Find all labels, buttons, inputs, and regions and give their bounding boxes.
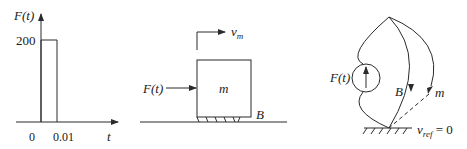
source-label: F(t) — [329, 70, 350, 85]
source-branch-bottom — [359, 92, 389, 128]
y-axis-label: F(t) — [13, 8, 34, 23]
branch-m-label: m — [435, 85, 444, 100]
friction-hatch — [197, 117, 240, 122]
branch-b-arrow-icon — [408, 84, 414, 92]
branch-m-arrow-icon — [427, 86, 433, 94]
velocity-label: vm — [231, 24, 244, 41]
source-branch-top — [358, 17, 389, 64]
pulse-plot: F(t) 200 0 0.01 t — [13, 8, 118, 144]
x-tick-001: 0.01 — [53, 130, 74, 144]
friction-label: B — [256, 107, 264, 122]
reference-hatch — [363, 128, 407, 134]
velocity-arrow — [197, 32, 225, 50]
mass-label: m — [219, 81, 228, 96]
branch-b — [389, 17, 410, 128]
mechanical-system: F(t) m vm B — [140, 24, 287, 122]
x-tick-0: 0 — [29, 130, 35, 144]
force-label: F(t) — [142, 81, 163, 96]
y-tick-200: 200 — [16, 33, 36, 48]
branch-m-solid — [389, 17, 434, 86]
x-axis-label: t — [107, 129, 111, 144]
pulse-rectangle — [41, 40, 57, 122]
branch-b-label: B — [395, 84, 403, 99]
branch-m-dashed — [389, 94, 429, 128]
diagram-canvas: F(t) 200 0 0.01 t F(t) m vm B — [0, 0, 467, 149]
linear-graph: F(t) B m vref = 0 — [329, 17, 453, 139]
reference-label: vref = 0 — [417, 122, 453, 139]
